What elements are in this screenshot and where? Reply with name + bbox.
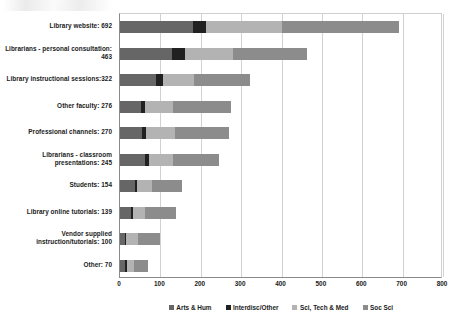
bar-segment-soc-sci[interactable] (138, 233, 161, 245)
plot-area (119, 13, 442, 278)
bar-segment-sci-tech-med[interactable] (206, 21, 283, 33)
bar-row[interactable] (120, 41, 441, 68)
category-label: Library instructional sessions:322 (0, 75, 112, 83)
scan-artifact (4, 0, 112, 11)
bar-segment-soc-sci[interactable] (173, 154, 219, 166)
legend-item[interactable]: Soc Sci (363, 304, 394, 311)
stacked-bar[interactable] (120, 127, 229, 139)
bar-segment-sci-tech-med[interactable] (146, 127, 175, 139)
x-tick-label: 600 (356, 280, 367, 287)
category-label: Librarians - classroom presentations: 24… (0, 151, 112, 167)
x-tick-label: 300 (235, 280, 246, 287)
category-label: Professional channels: 270 (0, 128, 112, 136)
bar-segment-soc-sci[interactable] (145, 207, 176, 219)
bar-segment-soc-sci[interactable] (233, 48, 307, 60)
bar-segment-sci-tech-med[interactable] (133, 207, 146, 219)
bar-row[interactable] (120, 14, 441, 41)
legend-item[interactable]: Sci, Tech & Med (292, 304, 348, 311)
bar-segment-arts-hum[interactable] (120, 21, 193, 33)
x-tick-label: 700 (396, 280, 407, 287)
bar-row[interactable] (120, 94, 441, 121)
bar-row[interactable] (120, 226, 441, 253)
bar-segment-sci-tech-med[interactable] (127, 260, 134, 272)
bar-row[interactable] (120, 120, 441, 147)
legend-swatch-icon (169, 305, 174, 310)
legend-label: Arts & Hum (176, 304, 211, 311)
bar-segment-interdisc-other[interactable] (193, 21, 206, 33)
category-axis-labels: Library website: 692Librarians - persona… (0, 13, 116, 278)
bar-segment-arts-hum[interactable] (120, 127, 142, 139)
bar-segment-arts-hum[interactable] (120, 101, 141, 113)
category-label: Other faculty: 276 (0, 102, 112, 110)
bar-segment-soc-sci[interactable] (282, 21, 399, 33)
category-label: Librarians - personal consultation: 463 (0, 45, 112, 61)
legend-swatch-icon (226, 305, 231, 310)
bar-segment-sci-tech-med[interactable] (185, 48, 233, 60)
stacked-bar[interactable] (120, 101, 231, 113)
bar-segment-arts-hum[interactable] (120, 74, 156, 86)
gridline (443, 14, 444, 277)
x-tick-label: 100 (154, 280, 165, 287)
bar-row[interactable] (120, 200, 441, 227)
bar-segment-soc-sci[interactable] (173, 101, 232, 113)
category-label: Vendor supplied instruction/tutorials: 1… (0, 230, 112, 246)
legend-label: Soc Sci (370, 304, 393, 311)
bar-rows (120, 14, 441, 277)
legend-item[interactable]: Arts & Hum (169, 304, 212, 311)
legend-swatch-icon (363, 305, 368, 310)
category-label: Other: 70 (0, 261, 112, 269)
x-tick-label: 200 (194, 280, 205, 287)
x-tick-label: 800 (437, 280, 448, 287)
stacked-bar[interactable] (120, 154, 219, 166)
category-label: Library online tutorials: 139 (0, 208, 112, 216)
value-axis-ticks: 0100200300400500600700800 (119, 280, 443, 292)
category-label: Library website: 692 (0, 22, 112, 30)
bar-segment-arts-hum[interactable] (120, 154, 145, 166)
stacked-bar[interactable] (120, 74, 250, 86)
bar-row[interactable] (120, 173, 441, 200)
bar-row[interactable] (120, 147, 441, 174)
bar-segment-soc-sci[interactable] (152, 180, 182, 192)
bar-segment-sci-tech-med[interactable] (163, 74, 194, 86)
stacked-bar-chart: Library website: 692Librarians - persona… (0, 0, 459, 321)
bar-segment-arts-hum[interactable] (120, 207, 131, 219)
legend-swatch-icon (292, 305, 297, 310)
bar-segment-soc-sci[interactable] (134, 260, 148, 272)
bar-row[interactable] (120, 67, 441, 94)
stacked-bar[interactable] (120, 180, 182, 192)
x-tick-label: 500 (316, 280, 327, 287)
stacked-bar[interactable] (120, 233, 160, 245)
bar-segment-sci-tech-med[interactable] (149, 154, 173, 166)
bar-segment-sci-tech-med[interactable] (126, 233, 137, 245)
bar-segment-soc-sci[interactable] (175, 127, 229, 139)
x-tick-label: 400 (275, 280, 286, 287)
stacked-bar[interactable] (120, 21, 399, 33)
category-label: Students: 154 (0, 181, 112, 189)
stacked-bar[interactable] (120, 260, 148, 272)
chart-legend: Arts & HumInterdisc/OtherSci, Tech & Med… (119, 300, 443, 314)
stacked-bar[interactable] (120, 48, 307, 60)
legend-label: Interdisc/Other (233, 304, 278, 311)
legend-label: Sci, Tech & Med (300, 304, 349, 311)
bar-segment-arts-hum[interactable] (120, 180, 135, 192)
x-tick-label: 0 (117, 280, 121, 287)
bar-segment-sci-tech-med[interactable] (137, 180, 152, 192)
legend-item[interactable]: Interdisc/Other (226, 304, 279, 311)
bar-row[interactable] (120, 253, 441, 280)
bar-segment-arts-hum[interactable] (120, 48, 172, 60)
bar-segment-interdisc-other[interactable] (172, 48, 184, 60)
stacked-bar[interactable] (120, 207, 176, 219)
bar-segment-sci-tech-med[interactable] (145, 101, 173, 113)
bar-segment-soc-sci[interactable] (194, 74, 250, 86)
